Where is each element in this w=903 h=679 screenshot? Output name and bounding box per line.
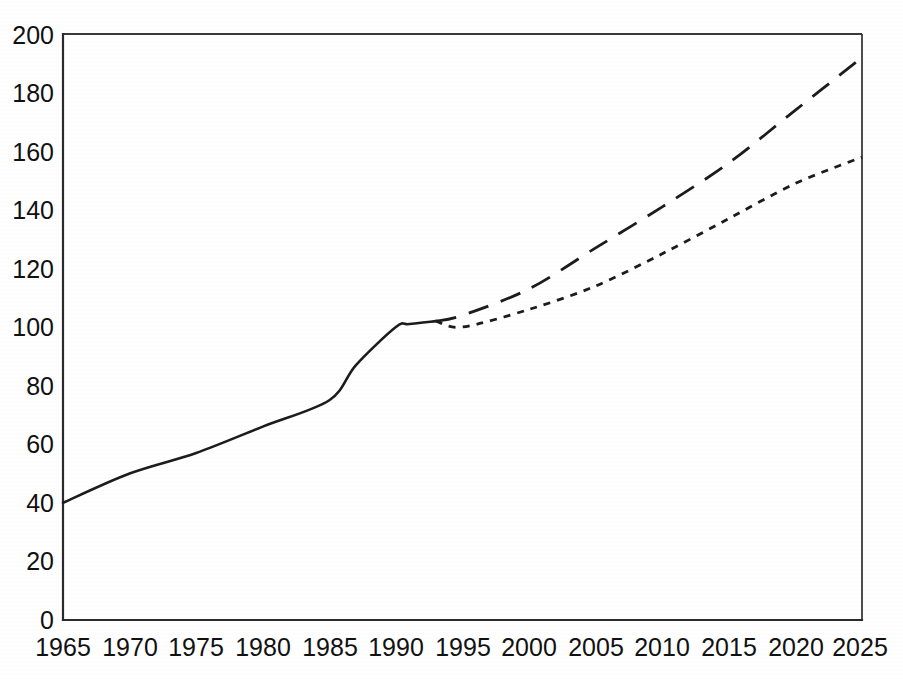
x-tick-label: 1985 <box>302 633 358 661</box>
x-tick-label: 1995 <box>435 633 491 661</box>
x-tick-label: 2010 <box>634 633 690 661</box>
x-tick-label: 1975 <box>168 633 224 661</box>
y-tick-label: 0 <box>40 606 54 634</box>
line-chart-svg: 0 20 40 60 80 100 120 140 160 180 200 19… <box>0 0 903 679</box>
x-tick-label: 2025 <box>832 633 888 661</box>
y-tick-label: 60 <box>26 430 54 458</box>
x-tick-label: 2005 <box>568 633 624 661</box>
chart-figure: 0 20 40 60 80 100 120 140 160 180 200 19… <box>0 0 903 679</box>
y-tick-label: 80 <box>26 372 54 400</box>
y-tick-label: 120 <box>12 255 54 283</box>
y-tick-label: 200 <box>12 21 54 49</box>
y-tick-label: 20 <box>26 547 54 575</box>
x-tick-label: 1990 <box>368 633 424 661</box>
x-tick-label: 1970 <box>102 633 158 661</box>
x-tick-label: 2020 <box>768 633 824 661</box>
chart-background <box>0 0 903 679</box>
y-tick-label: 100 <box>12 313 54 341</box>
y-tick-label: 180 <box>12 79 54 107</box>
y-tick-label: 140 <box>12 196 54 224</box>
y-tick-label: 40 <box>26 489 54 517</box>
x-tick-label: 1980 <box>235 633 291 661</box>
y-tick-label: 160 <box>12 138 54 166</box>
x-tick-label: 1965 <box>35 633 91 661</box>
x-tick-label: 2015 <box>701 633 757 661</box>
x-tick-label: 2000 <box>501 633 557 661</box>
